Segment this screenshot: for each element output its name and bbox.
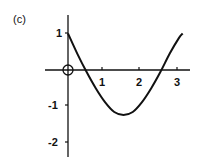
y-tick-label: -2	[48, 136, 58, 148]
x-tick-label: 2	[136, 76, 142, 88]
x-tick-label: 3	[174, 76, 180, 88]
x-tick-label: 1	[99, 76, 105, 88]
y-tick-label: 1	[56, 27, 62, 39]
data-curve	[68, 34, 183, 115]
chart: 1 2 3 1 -1 -2	[0, 0, 199, 166]
y-tick-label: -1	[48, 99, 58, 111]
